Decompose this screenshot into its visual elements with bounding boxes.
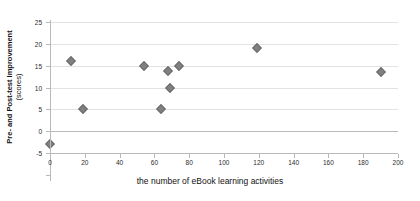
gridline-15	[50, 66, 398, 67]
y-tick-label: -5	[36, 150, 42, 157]
scatter-chart: 25 20 15 10 5 0 -5	[0, 0, 420, 201]
gridline-5	[50, 109, 398, 110]
data-point	[156, 104, 166, 114]
x-tick-mark	[224, 154, 225, 158]
data-point	[78, 104, 88, 114]
data-point	[163, 66, 173, 76]
x-tick-label: 40	[116, 159, 123, 166]
x-tick-mark	[154, 154, 155, 158]
data-point	[165, 83, 175, 93]
x-tick-label: 160	[323, 159, 334, 166]
x-tick-mark	[328, 154, 329, 158]
x-tick-label: 100	[219, 159, 230, 166]
y-tick-label: 10	[35, 85, 42, 92]
x-tick-mark	[363, 154, 364, 158]
data-point	[376, 67, 386, 77]
x-tick-label: 180	[358, 159, 369, 166]
y-tick-label: 20	[35, 41, 42, 48]
y-axis-title-line2: (scores)	[14, 17, 23, 157]
data-point	[174, 61, 184, 71]
gridline-25	[50, 22, 398, 23]
x-tick-label: 140	[288, 159, 299, 166]
y-axis-title-line1: Pre- and Post-test Improvement	[5, 30, 14, 143]
x-tick-label: 60	[151, 159, 158, 166]
x-tick-mark	[120, 154, 121, 158]
x-axis-title: the number of eBook learning activities	[0, 176, 420, 187]
gridline-10	[50, 88, 398, 89]
data-point	[139, 61, 149, 71]
y-axis-title: Pre- and Post-test Improvement (scores)	[5, 17, 23, 157]
x-tick-mark	[85, 154, 86, 158]
x-tick-mark	[50, 154, 51, 158]
y-tick-label: 0	[38, 128, 42, 135]
plot-area	[50, 22, 398, 153]
x-tick-label: 200	[393, 159, 404, 166]
x-tick-mark	[189, 154, 190, 158]
y-tick-label: 5	[38, 106, 42, 113]
x-tick-mark	[259, 154, 260, 158]
x-tick-label: 20	[81, 159, 88, 166]
y-tick-label: 15	[35, 63, 42, 70]
x-tick-label: 0	[48, 159, 52, 166]
gridline-20	[50, 44, 398, 45]
x-tick-label: 80	[186, 159, 193, 166]
x-tick-label: 120	[253, 159, 264, 166]
x-tick-mark	[398, 154, 399, 158]
x-tick-mark	[294, 154, 295, 158]
gridline-0	[50, 131, 398, 132]
y-tick-label: 25	[35, 19, 42, 26]
